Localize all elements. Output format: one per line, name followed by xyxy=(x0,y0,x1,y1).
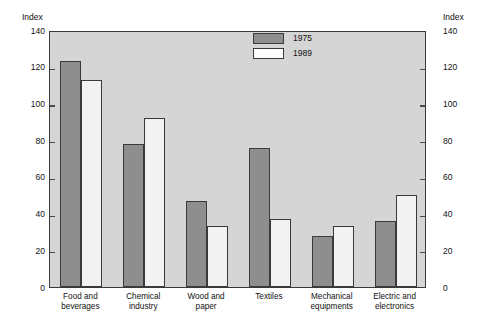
x-category-label-line: beverages xyxy=(49,302,112,312)
x-category-label-line: paper xyxy=(175,302,238,312)
y-tick-label-right-60: 60 xyxy=(443,173,452,182)
y-tick-mark-right-60 xyxy=(420,179,425,180)
y-tick-mark-right-100 xyxy=(420,105,425,106)
y-tick-mark-left-80 xyxy=(50,142,55,143)
cropped-title-remnant xyxy=(180,0,310,5)
y-axis-ticks-left: 020406080100120140 xyxy=(5,31,45,288)
y-axis-unit-left: Index xyxy=(22,12,43,22)
legend-label: 1975 xyxy=(293,33,312,44)
y-tick-label-right-80: 80 xyxy=(443,137,452,146)
bar xyxy=(207,226,228,287)
x-category-label-line: Food and xyxy=(49,292,112,302)
x-category-label: Wood andpaper xyxy=(175,292,238,312)
y-tick-label-left-0: 0 xyxy=(40,284,45,293)
x-category-label: Mechanicalequipments xyxy=(300,292,363,312)
legend-swatch xyxy=(253,48,284,59)
bar xyxy=(144,118,165,287)
y-tick-mark-left-40 xyxy=(50,216,55,217)
legend-item: 1989 xyxy=(253,48,312,59)
y-axis-unit-right: Index xyxy=(443,12,464,22)
bar xyxy=(186,201,207,287)
x-category-label: Chemicalindustry xyxy=(112,292,175,312)
bar xyxy=(60,61,81,287)
plot-area xyxy=(49,31,426,288)
y-tick-label-left-140: 140 xyxy=(31,27,45,36)
bar xyxy=(375,221,396,287)
bar-group xyxy=(123,32,165,287)
y-tick-label-right-0: 0 xyxy=(443,284,448,293)
x-category-label-line: Mechanical xyxy=(300,292,363,302)
y-tick-mark-left-120 xyxy=(50,69,55,70)
x-axis-category-labels: Food andbeveragesChemicalindustryWood an… xyxy=(49,292,426,324)
bar-group xyxy=(249,32,291,287)
bar-group xyxy=(60,32,102,287)
chart-legend: 19751989 xyxy=(253,33,312,59)
y-tick-mark-left-20 xyxy=(50,252,55,253)
bar-group xyxy=(312,32,354,287)
bar xyxy=(396,195,417,287)
y-tick-mark-left-60 xyxy=(50,179,55,180)
y-tick-label-right-40: 40 xyxy=(443,210,452,219)
bar xyxy=(81,80,102,287)
y-axis-ticks-right: 020406080100120140 xyxy=(443,31,483,288)
y-tick-mark-right-120 xyxy=(420,69,425,70)
y-tick-label-left-100: 100 xyxy=(31,100,45,109)
x-category-label-line: equipments xyxy=(300,302,363,312)
y-tick-mark-right-80 xyxy=(420,142,425,143)
y-tick-label-right-100: 100 xyxy=(443,100,457,109)
y-tick-label-right-120: 120 xyxy=(443,63,457,72)
y-tick-label-left-40: 40 xyxy=(36,210,45,219)
bar-group xyxy=(186,32,228,287)
bar xyxy=(249,148,270,288)
y-tick-label-right-140: 140 xyxy=(443,27,457,36)
x-category-label-line: industry xyxy=(112,302,175,312)
x-category-label: Electric andelectronics xyxy=(363,292,426,312)
y-tick-mark-right-20 xyxy=(420,252,425,253)
bar xyxy=(333,226,354,287)
bar-group xyxy=(375,32,417,287)
legend-item: 1975 xyxy=(253,33,312,44)
x-category-label-line: Textiles xyxy=(238,292,301,302)
bar xyxy=(270,219,291,287)
y-tick-label-left-20: 20 xyxy=(36,247,45,256)
y-tick-label-right-20: 20 xyxy=(443,247,452,256)
x-category-label-line: Electric and xyxy=(363,292,426,302)
bar-series-container xyxy=(50,32,425,287)
y-tick-label-left-60: 60 xyxy=(36,173,45,182)
bar xyxy=(312,236,333,287)
legend-swatch xyxy=(253,33,284,44)
bar xyxy=(123,144,144,287)
legend-label: 1989 xyxy=(293,48,312,59)
y-tick-label-left-80: 80 xyxy=(36,137,45,146)
x-category-label: Food andbeverages xyxy=(49,292,112,312)
x-category-label-line: electronics xyxy=(363,302,426,312)
y-tick-mark-right-40 xyxy=(420,216,425,217)
x-category-label-line: Chemical xyxy=(112,292,175,302)
y-tick-label-left-120: 120 xyxy=(31,63,45,72)
x-category-label-line: Wood and xyxy=(175,292,238,302)
y-tick-mark-left-100 xyxy=(50,105,55,106)
x-category-label: Textiles xyxy=(238,292,301,302)
bar-chart: Index Index 020406080100120140 020406080… xyxy=(0,0,483,328)
